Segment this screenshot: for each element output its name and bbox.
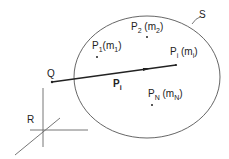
origin-point-label: Q (47, 69, 55, 79)
vector-label: Pi (113, 79, 122, 91)
point-q (51, 81, 53, 83)
point-p2 (146, 36, 148, 38)
point-p1 (96, 56, 98, 58)
point-label-pn: PN (mN) (148, 89, 183, 101)
region-label: S (199, 10, 206, 20)
point-pi (175, 64, 177, 66)
point-pn (151, 104, 153, 106)
axis-diagonal (15, 118, 60, 155)
point-label-p1: P1(m1) (92, 41, 122, 53)
point-label-p2: P2 (m2) (131, 22, 163, 34)
point-label-pi: Pi (mi) (170, 47, 198, 59)
region-s-ellipse (74, 16, 220, 138)
arrowhead-icon (143, 68, 152, 71)
reference-frame-label: R (27, 115, 34, 125)
